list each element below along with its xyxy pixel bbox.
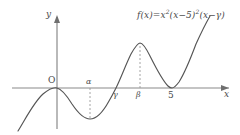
formula-equals: = xyxy=(153,10,161,20)
x-axis-label: x xyxy=(224,90,229,99)
formula-factor3: (x−γ) xyxy=(199,10,225,20)
y-axis-label: y xyxy=(46,10,51,19)
function-formula-label: f(x)=x2(x−5)2(x−γ) xyxy=(137,11,225,20)
origin-label: O xyxy=(48,76,55,85)
tick-label-alpha: α xyxy=(86,78,91,86)
tick-label-five: 5 xyxy=(168,91,174,100)
plot-canvas xyxy=(0,0,240,135)
tick-label-beta: β xyxy=(136,91,141,99)
formula-factor2: (x−5) xyxy=(170,10,196,20)
y-axis-arrow-icon xyxy=(54,15,60,23)
formula-lhs: f(x) xyxy=(137,10,153,20)
function-graph-figure: O y x α γ β 5 f(x)=x2(x−5)2(x−γ) xyxy=(0,0,240,135)
function-curve xyxy=(18,16,210,131)
tick-label-gamma: γ xyxy=(113,91,118,99)
